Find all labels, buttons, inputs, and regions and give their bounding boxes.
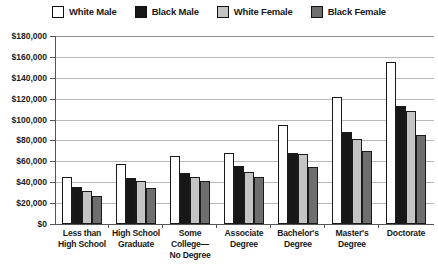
y-tick-mark (50, 182, 55, 183)
y-tick-mark (50, 57, 55, 58)
y-tick-label: $160,000 (12, 53, 47, 62)
y-tick-label: $120,000 (12, 94, 47, 103)
legend-label: White Female (234, 7, 293, 17)
x-axis-label: High SchoolGraduate (109, 228, 163, 268)
bar-groups (55, 36, 433, 224)
y-tick-label: $100,000 (12, 115, 47, 124)
legend-item-black-male[interactable]: Black Male (135, 6, 199, 18)
grouped-bar-chart: White MaleBlack MaleWhite FemaleBlack Fe… (0, 0, 438, 269)
y-tick-mark (50, 140, 55, 141)
bar[interactable] (180, 173, 190, 224)
y-axis-labels: $180,000$160,000$140,000$120,000$100,000… (0, 36, 52, 224)
bar-group (217, 36, 271, 224)
y-tick-mark (50, 36, 55, 37)
legend-swatch-icon (217, 6, 229, 18)
legend-label: White Male (69, 7, 117, 17)
bar[interactable] (234, 166, 244, 224)
x-axis-labels: Less thanHigh SchoolHigh SchoolGraduateS… (55, 228, 433, 268)
bar[interactable] (332, 97, 342, 224)
bar[interactable] (288, 153, 298, 224)
legend-swatch-icon (52, 6, 64, 18)
bar[interactable] (362, 151, 372, 224)
bar[interactable] (416, 135, 426, 224)
bar[interactable] (352, 139, 362, 224)
x-axis-label: Doctorate (379, 228, 433, 268)
x-axis-label: Less thanHigh School (55, 228, 109, 268)
bar-group (271, 36, 325, 224)
bar-group (109, 36, 163, 224)
legend-swatch-icon (135, 6, 147, 18)
y-tick-label: $0 (38, 220, 47, 229)
bar[interactable] (170, 156, 180, 224)
legend-label: Black Female (328, 7, 386, 17)
y-tick-label: $180,000 (12, 32, 47, 41)
bar-group (55, 36, 109, 224)
bar[interactable] (224, 153, 234, 224)
bar[interactable] (146, 188, 156, 224)
bar[interactable] (298, 154, 308, 224)
bar[interactable] (278, 125, 288, 224)
bar[interactable] (308, 167, 318, 224)
y-tick-mark (50, 99, 55, 100)
legend-item-white-male[interactable]: White Male (52, 6, 117, 18)
y-tick-mark (50, 120, 55, 121)
y-tick-label: $40,000 (16, 178, 47, 187)
x-axis-label: Some College—No Degree (163, 228, 217, 268)
legend-item-black-female[interactable]: Black Female (311, 6, 386, 18)
bar-group (325, 36, 379, 224)
bar[interactable] (190, 177, 200, 224)
bar[interactable] (406, 111, 416, 224)
bar[interactable] (244, 172, 254, 224)
bar[interactable] (396, 106, 406, 224)
legend-item-white-female[interactable]: White Female (217, 6, 293, 18)
x-axis-label: AssociateDegree (217, 228, 271, 268)
bar[interactable] (126, 178, 136, 224)
y-tick-mark (50, 78, 55, 79)
x-axis-label: Master'sDegree (325, 228, 379, 268)
bar-group (379, 36, 433, 224)
legend-label: Black Male (152, 7, 199, 17)
bar-group (163, 36, 217, 224)
y-tick-label: $60,000 (16, 157, 47, 166)
y-tick-label: $80,000 (16, 136, 47, 145)
y-tick-mark (50, 203, 55, 204)
bar[interactable] (136, 181, 146, 224)
bar[interactable] (92, 196, 102, 224)
bar[interactable] (116, 164, 126, 224)
bar[interactable] (200, 181, 210, 224)
bar[interactable] (82, 191, 92, 224)
bar[interactable] (72, 187, 82, 224)
bar[interactable] (342, 132, 352, 224)
bar[interactable] (386, 62, 396, 224)
legend-swatch-icon (311, 6, 323, 18)
bar[interactable] (62, 177, 72, 224)
y-tick-mark (50, 161, 55, 162)
y-tick-label: $20,000 (16, 199, 47, 208)
bar[interactable] (254, 177, 264, 224)
x-axis-label: Bachelor'sDegree (271, 228, 325, 268)
y-tick-mark (50, 224, 55, 225)
chart-legend: White MaleBlack MaleWhite FemaleBlack Fe… (0, 6, 438, 18)
y-tick-label: $140,000 (12, 74, 47, 83)
